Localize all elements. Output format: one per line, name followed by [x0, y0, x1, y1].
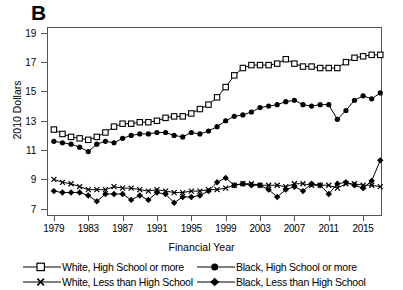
open-square-marker: [240, 65, 245, 70]
open-square-marker: [360, 54, 365, 59]
filled-diamond-marker: [111, 191, 117, 197]
filled-circle-marker: [257, 105, 262, 110]
chart-panel: B 791113151719 1979198319871991199519992…: [0, 0, 403, 290]
open-square-marker: [283, 57, 288, 62]
filled-diamond-marker: [248, 182, 254, 188]
open-square-marker: [326, 65, 331, 70]
filled-circle-marker: [129, 133, 134, 138]
open-square-marker: [369, 52, 374, 57]
open-square-marker: [343, 59, 348, 64]
open-square-marker: [223, 84, 228, 89]
filled-circle-marker: [292, 98, 297, 103]
legend-label: Black, Less than High School: [236, 276, 366, 288]
open-square-marker: [171, 114, 176, 119]
series-line: [54, 93, 380, 152]
open-square-marker: [60, 131, 65, 136]
filled-diamond-marker: [351, 182, 357, 188]
open-square-marker: [163, 115, 168, 120]
open-square-marker: [180, 114, 185, 119]
open-square-marker: [197, 106, 202, 111]
open-square-marker: [309, 64, 314, 69]
open-square-marker: [86, 137, 91, 142]
filled-circle-marker: [103, 139, 108, 144]
open-square-marker: [257, 62, 262, 67]
filled-circle-marker: [223, 118, 228, 123]
filled-circle-marker: [300, 102, 305, 107]
filled-circle-marker: [51, 139, 56, 144]
open-square-marker: [77, 136, 82, 141]
open-square-marker: [335, 65, 340, 70]
filled-circle-marker: [266, 104, 271, 109]
chart-legend: White, High School or more Black, High S…: [0, 259, 403, 289]
filled-circle-marker: [240, 112, 245, 117]
filled-diamond-marker: [85, 192, 91, 198]
series-filled-diamond: [51, 157, 384, 206]
series-layer: [0, 0, 403, 290]
filled-diamond-marker: [59, 189, 65, 195]
open-square-marker: [120, 121, 125, 126]
filled-diamond-marker: [188, 194, 194, 200]
filled-circle-marker: [214, 124, 219, 129]
filled-circle-marker: [343, 108, 348, 113]
filled-diamond-marker: [68, 189, 74, 195]
filled-circle-marker: [378, 90, 383, 95]
filled-circle-marker: [120, 136, 125, 141]
filled-circle-marker: [318, 102, 323, 107]
legend-item-white-hs-or-more: White, High School or more: [0, 261, 196, 273]
open-square-marker: [292, 61, 297, 66]
open-square-marker: [154, 118, 159, 123]
legend-item-black-less-than-hs: Black, Less than High School: [196, 276, 403, 288]
filled-circle-marker: [361, 93, 366, 98]
open-square-marker: [189, 111, 194, 116]
legend-item-black-hs-or-more: Black, High School or more: [196, 261, 403, 273]
filled-circle-marker: [369, 96, 374, 101]
filled-circle-marker: [283, 99, 288, 104]
open-square-marker: [128, 121, 133, 126]
open-square-marker: [232, 73, 237, 78]
filled-diamond-marker: [377, 157, 383, 163]
open-square-marker: [206, 102, 211, 107]
open-square-marker: [249, 62, 254, 67]
filled-diamond-marker: [119, 191, 125, 197]
filled-circle-marker: [77, 145, 82, 150]
legend-label: White, Less than High School: [62, 276, 193, 288]
filled-diamond-marker: [137, 192, 143, 198]
filled-circle-marker: [172, 133, 177, 138]
filled-diamond-marker: [51, 188, 57, 194]
filled-circle-marker: [163, 130, 168, 135]
filled-diamond-marker: [76, 189, 82, 195]
legend-row: White, High School or more Black, High S…: [0, 259, 403, 274]
open-square-marker: [378, 52, 383, 57]
filled-circle-marker: [60, 140, 65, 145]
filled-circle-marker: [154, 130, 159, 135]
filled-circle-marker: [206, 128, 211, 133]
filled-circle-marker: [249, 109, 254, 114]
open-square-marker: [137, 120, 142, 125]
open-square-marker: [94, 134, 99, 139]
filled-circle-marker: [180, 134, 185, 139]
legend-label: Black, High School or more: [236, 261, 357, 273]
filled-circle-marker: [309, 104, 314, 109]
filled-circle-marker: [275, 102, 280, 107]
filled-circle-marker: [94, 142, 99, 147]
filled-circle-marker: [86, 149, 91, 154]
open-square-marker: [68, 134, 73, 139]
open-square-marker: [266, 62, 271, 67]
filled-diamond-marker: [128, 197, 134, 203]
x-cross-icon: [22, 276, 62, 288]
filled-circle-marker: [352, 98, 357, 103]
open-square-marker: [103, 130, 108, 135]
filled-circle-marker: [335, 117, 340, 122]
x-cross-marker: [51, 177, 56, 182]
open-square-marker: [300, 64, 305, 69]
open-square-icon: [22, 261, 62, 273]
filled-circle-marker: [111, 140, 116, 145]
filled-circle-marker: [137, 131, 142, 136]
legend-label: White, High School or more: [62, 261, 184, 273]
open-square-marker: [352, 55, 357, 60]
x-cross-marker: [77, 184, 82, 189]
filled-circle-marker: [189, 130, 194, 135]
filled-circle-marker: [197, 131, 202, 136]
filled-circle-marker: [68, 142, 73, 147]
open-square-marker: [275, 61, 280, 66]
